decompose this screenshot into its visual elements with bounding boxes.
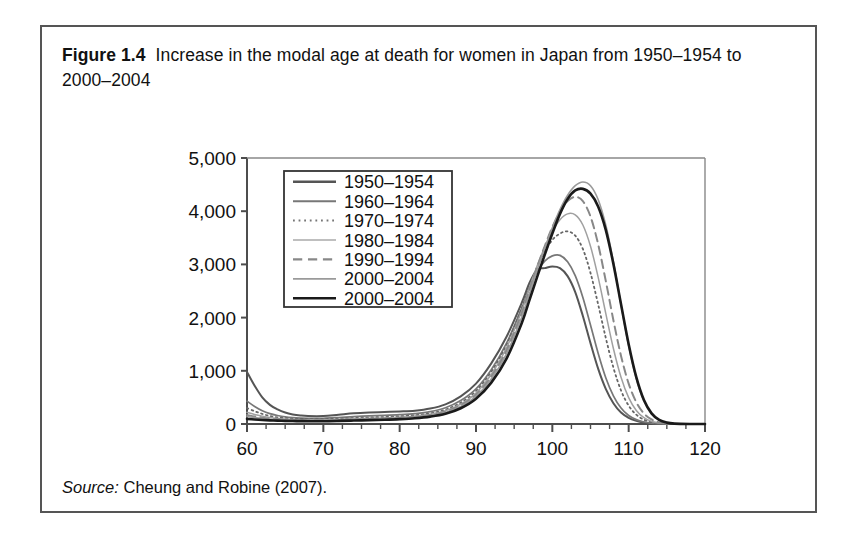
x-tick-label: 60 [236, 438, 257, 459]
legend-label-0: 1950–1954 [344, 172, 434, 192]
legend-label-4: 1990–1994 [344, 250, 434, 270]
legend-label-3: 1980–1984 [344, 231, 434, 251]
legend-label-5: 2000–2004 [344, 269, 434, 289]
figure-caption: Figure 1.4 Increase in the modal age at … [62, 43, 780, 93]
figure-page: Figure 1.4 Increase in the modal age at … [0, 0, 855, 540]
y-tick-label: 2,000 [188, 308, 236, 329]
legend-label-1: 1960–1964 [344, 192, 434, 212]
mortality-distribution-chart: 1950–19541960–19641970–19741980–19841990… [42, 99, 815, 469]
x-tick-label: 70 [313, 438, 334, 459]
x-axis-title: Age (years) [427, 467, 525, 469]
chart-area: 1950–19541960–19641970–19741980–19841990… [42, 99, 815, 469]
y-tick-label: 4,000 [188, 201, 236, 222]
figure-caption-text: Increase in the modal age at death for w… [62, 45, 742, 90]
x-tick-label: 100 [536, 438, 568, 459]
y-tick-label: 1,000 [188, 361, 236, 382]
legend-box: 1950–19541960–19641970–19741980–19841990… [284, 171, 452, 309]
source-label: Source: [62, 478, 119, 496]
x-tick-label: 110 [614, 438, 644, 459]
figure-box: Figure 1.4 Increase in the modal age at … [40, 25, 817, 513]
legend-label-2: 1970–1974 [344, 211, 434, 231]
x-tick-label: 80 [389, 438, 410, 459]
y-tick-label: 3,000 [188, 254, 236, 275]
y-tick-label: 0 [225, 414, 236, 435]
figure-label: Figure 1.4 [62, 45, 146, 65]
source-citation: Cheung and Robine (2007). [123, 478, 327, 496]
x-tick-label: 120 [689, 438, 721, 459]
legend-label-6: 2000–2004 [344, 289, 434, 309]
x-tick-label: 90 [465, 438, 486, 459]
source-line: Source: Cheung and Robine (2007). [62, 478, 327, 497]
y-tick-label: 5,000 [188, 148, 236, 169]
